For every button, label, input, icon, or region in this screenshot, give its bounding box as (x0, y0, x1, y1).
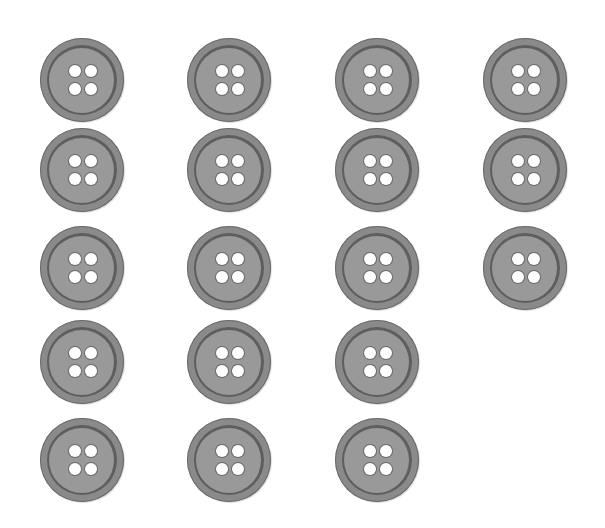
button-hole (528, 271, 540, 283)
button-hole (69, 445, 81, 457)
button-hole (85, 65, 97, 77)
button-hole (232, 173, 244, 185)
sewing-button-icon (187, 320, 271, 404)
button-hole (528, 253, 540, 265)
sewing-button-icon (335, 226, 419, 310)
button-hole (216, 463, 228, 475)
button-hole (380, 347, 392, 359)
button-hole (85, 445, 97, 457)
button-hole (69, 65, 81, 77)
button-rim (47, 135, 117, 205)
button-hole (216, 271, 228, 283)
sewing-button-icon (335, 128, 419, 212)
button-hole (69, 173, 81, 185)
sewing-button-icon (483, 128, 567, 212)
button-hole (380, 271, 392, 283)
button-hole (69, 463, 81, 475)
button-rim (342, 45, 412, 115)
button-hole (85, 271, 97, 283)
button-grid (0, 0, 605, 528)
button-hole (216, 445, 228, 457)
button-rim (490, 45, 560, 115)
button-hole (380, 253, 392, 265)
button-hole (512, 253, 524, 265)
button-hole (232, 347, 244, 359)
button-hole (380, 155, 392, 167)
button-rim (490, 135, 560, 205)
button-hole (69, 155, 81, 167)
button-rim (194, 233, 264, 303)
sewing-button-icon (40, 128, 124, 212)
button-hole (232, 65, 244, 77)
button-hole (364, 445, 376, 457)
button-hole (512, 173, 524, 185)
button-hole (85, 155, 97, 167)
button-rim (194, 425, 264, 495)
button-hole (69, 253, 81, 265)
button-hole (69, 365, 81, 377)
button-hole (232, 271, 244, 283)
sewing-button-icon (187, 418, 271, 502)
button-hole (364, 463, 376, 475)
sewing-button-icon (187, 128, 271, 212)
button-hole (364, 347, 376, 359)
button-hole (364, 173, 376, 185)
button-hole (216, 253, 228, 265)
sewing-button-icon (187, 226, 271, 310)
button-hole (528, 173, 540, 185)
button-rim (194, 327, 264, 397)
button-hole (364, 65, 376, 77)
button-hole (380, 445, 392, 457)
sewing-button-icon (40, 38, 124, 122)
button-hole (528, 65, 540, 77)
button-rim (194, 135, 264, 205)
button-hole (85, 83, 97, 95)
button-hole (232, 253, 244, 265)
sewing-button-icon (187, 38, 271, 122)
sewing-button-icon (40, 226, 124, 310)
button-rim (490, 233, 560, 303)
button-hole (512, 65, 524, 77)
button-hole (512, 271, 524, 283)
button-hole (364, 83, 376, 95)
button-hole (380, 365, 392, 377)
button-rim (342, 425, 412, 495)
button-hole (232, 463, 244, 475)
button-rim (47, 425, 117, 495)
button-rim (342, 135, 412, 205)
button-hole (216, 155, 228, 167)
button-hole (380, 463, 392, 475)
button-hole (85, 173, 97, 185)
sewing-button-icon (40, 418, 124, 502)
button-hole (528, 83, 540, 95)
button-hole (216, 347, 228, 359)
button-hole (512, 83, 524, 95)
button-hole (216, 83, 228, 95)
button-hole (380, 173, 392, 185)
button-rim (47, 233, 117, 303)
button-hole (69, 271, 81, 283)
button-hole (85, 365, 97, 377)
button-hole (232, 365, 244, 377)
button-hole (364, 155, 376, 167)
sewing-button-icon (335, 38, 419, 122)
button-rim (194, 45, 264, 115)
button-rim (47, 45, 117, 115)
sewing-button-icon (483, 38, 567, 122)
button-hole (85, 253, 97, 265)
button-hole (216, 365, 228, 377)
button-hole (364, 253, 376, 265)
button-hole (380, 83, 392, 95)
button-hole (69, 83, 81, 95)
sewing-button-icon (40, 320, 124, 404)
button-hole (232, 155, 244, 167)
button-hole (512, 155, 524, 167)
sewing-button-icon (483, 226, 567, 310)
button-rim (342, 233, 412, 303)
button-hole (232, 445, 244, 457)
button-rim (47, 327, 117, 397)
button-hole (85, 347, 97, 359)
button-hole (364, 365, 376, 377)
button-rim (342, 327, 412, 397)
button-hole (216, 65, 228, 77)
